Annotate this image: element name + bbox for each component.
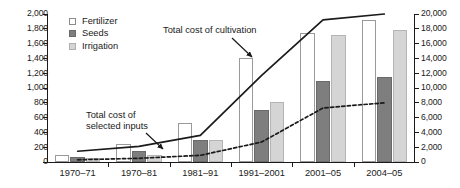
y-axis-right-tick-label: 10,000 (421, 83, 447, 92)
x-axis-category-label: 2004–05 (354, 168, 415, 178)
chart-container: Fertilizer Seeds Irrigation Total cost o… (0, 0, 460, 188)
y-axis-left-tick-label: 0 (43, 157, 48, 166)
y-axis-left-tick-label: 1,400 (27, 54, 48, 63)
y-axis-right-tick-label: 8,000 (421, 98, 442, 107)
y-axis-left-tick-label: 800 (34, 98, 48, 107)
y-axis-right-tick-label: 14,000 (421, 54, 447, 63)
x-axis-category-label: 1981–91 (170, 168, 231, 178)
y-axis-left-tick-label: 1,200 (27, 69, 48, 78)
y-axis-right-tick-label: 20,000 (421, 9, 447, 18)
x-axis-category-label: 1970–81 (108, 168, 169, 178)
y-axis-left-tick-label: 1,000 (27, 83, 48, 92)
y-axis-left-tick-label: 400 (34, 128, 48, 137)
arrow-cultivation (232, 38, 252, 57)
arrow-inputs (146, 133, 163, 149)
y-axis-right-tick-label: 6,000 (421, 113, 442, 122)
y-axis-left-tick-label: 1,800 (27, 24, 48, 33)
annotation-arrows-layer (0, 0, 460, 188)
y-axis-left-tick-label: 2,000 (27, 9, 48, 18)
y-axis-left-tick-label: 600 (34, 113, 48, 122)
y-axis-right-tick-label: 0 (421, 157, 426, 166)
y-axis-right-tick-label: 4,000 (421, 128, 442, 137)
y-axis-right-tick-label: 12,000 (421, 69, 447, 78)
y-axis-left-tick-label: 1,600 (27, 39, 48, 48)
x-axis-category-label: 1970–71 (47, 168, 108, 178)
y-axis-right-tick-label: 18,000 (421, 24, 447, 33)
y-axis-right-tick-label: 2,000 (421, 143, 442, 152)
y-axis-left-tick-label: 200 (34, 143, 48, 152)
x-axis-category-label: 1991–2001 (231, 168, 292, 178)
x-axis-category-label: 2001–05 (292, 168, 353, 178)
y-axis-right-tick-label: 16,000 (421, 39, 447, 48)
